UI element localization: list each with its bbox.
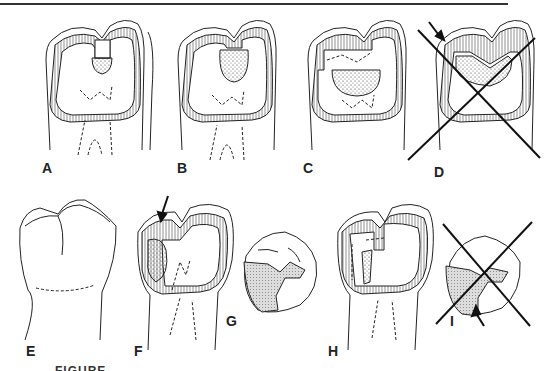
panel-f-arrow [158, 196, 168, 221]
panel-a-tooth [46, 20, 153, 155]
panel-label-i: I [450, 313, 454, 329]
panel-label-b: B [177, 160, 187, 176]
panel-label-c: C [303, 160, 313, 176]
panel-label-h: H [328, 343, 338, 359]
panel-f-tooth [138, 204, 234, 350]
panel-g-occlusal [244, 232, 317, 312]
figure-drawings [0, 0, 556, 371]
panel-b-tooth [178, 20, 276, 160]
panel-label-f: F [134, 343, 143, 359]
panel-label-a: A [42, 160, 52, 176]
panel-e-tooth [20, 200, 116, 340]
panel-label-e: E [26, 343, 35, 359]
panel-h-tooth [338, 204, 434, 350]
panel-c-tooth [308, 20, 406, 150]
figure-caption-cropped: FIGURE [55, 364, 535, 371]
panel-i-occlusal [446, 236, 520, 316]
panel-label-d: D [434, 164, 444, 180]
panel-label-g: G [226, 313, 237, 329]
